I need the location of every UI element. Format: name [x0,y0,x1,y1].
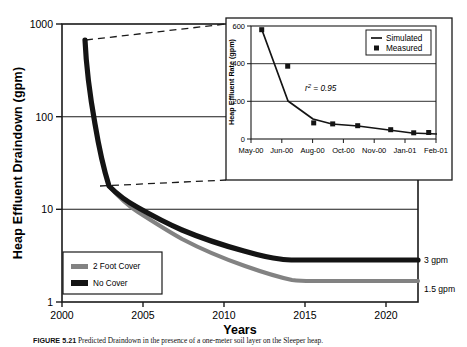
figure-caption-text: Predicted Draindown in the presence of a… [78,336,323,345]
measured-point [285,64,290,69]
inset-x-tick-jan-01: Jan-01 [394,146,417,155]
legend-label-2-foot-cover: 2 Foot Cover [93,262,141,271]
main-y-ticks [56,24,62,302]
inset-legend-label-simulated: Simulated [386,34,423,43]
measured-point [355,123,360,128]
y-tick-1: 1 [47,296,53,308]
inset-y-tick-600: 600 [232,22,245,31]
inset-legend: Simulated Measured [366,30,431,55]
main-x-tick-labels: 2000 2005 2010 2015 2020 [50,309,398,321]
figure-caption: FIGURE 5.21 Predicted Draindown in the p… [33,336,457,347]
y-tick-100: 100 [35,111,53,123]
r-squared-value: 0.95 [320,84,336,93]
inset-x-tick-may-00: May-00 [238,146,263,155]
legend-label-no-cover: No Cover [93,279,128,288]
measured-point [259,27,264,32]
inset-x-tick-jun-00: Jun-00 [270,146,293,155]
inset-x-tick-nov-00: Nov-00 [362,146,386,155]
measured-point [426,130,431,135]
x-tick-2005: 2005 [131,309,155,321]
measured-point [311,120,316,125]
legend-swatch-no-cover [71,280,88,286]
end-label-2-foot-cover: 1.5 gpm [424,284,455,294]
inset-x-tick-oct-00: Oct-00 [332,146,355,155]
measured-point [388,127,393,132]
figure-caption-label: FIGURE 5.21 [33,336,76,345]
end-label-no-cover: 3 gpm [424,255,448,265]
x-tick-2015: 2015 [293,309,317,321]
inset-legend-swatch-measured [374,46,379,51]
inset-legend-label-measured: Measured [386,44,423,53]
main-y-tick-labels: 1000 100 10 1 [30,18,54,308]
inset-x-tick-feb-01: Feb-01 [424,146,448,155]
inset-y-tick-0: 0 [241,135,245,144]
draindown-figure-svg: 1000 100 10 1 Heap Effluent Draindown (g… [0,0,467,347]
inset-x-tick-aug-00: Aug-00 [301,146,325,155]
measured-point [411,130,416,135]
figure-container: 1000 100 10 1 Heap Effluent Draindown (g… [0,0,467,347]
inset-y-axis-title: Heap Effluent Rate (gpm) [227,38,236,124]
x-tick-2010: 2010 [212,309,236,321]
y-tick-10: 10 [41,203,53,215]
main-legend: 2 Foot Cover No Cover [63,252,162,294]
inset-chart: 600 400 200 0 Heap Effluent Rate (gpm) M… [226,18,452,180]
x-tick-2000: 2000 [50,309,74,321]
y-tick-1000: 1000 [30,18,54,30]
measured-point [330,121,335,126]
main-x-axis-title: Years [223,323,256,337]
x-tick-2020: 2020 [374,309,398,321]
main-y-axis-title: Heap Effluent Draindown (gpm) [11,67,25,260]
legend-swatch-2-foot-cover [71,264,88,269]
